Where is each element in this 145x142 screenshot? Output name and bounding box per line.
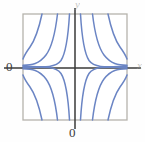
y-axis-label: y (75, 0, 80, 10)
origin-label-left: 0 (6, 60, 13, 73)
hyperbola-level-curve-figure: y x 0 0 (0, 0, 145, 142)
origin-label-bottom: 0 (69, 126, 76, 139)
plot-canvas (0, 0, 145, 142)
x-axis-label: x (137, 60, 142, 71)
